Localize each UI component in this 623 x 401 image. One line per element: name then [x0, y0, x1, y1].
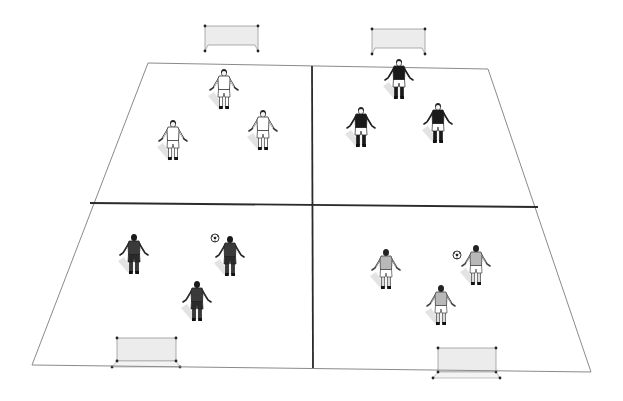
player-left-leg [220, 96, 223, 107]
goal-net [372, 29, 425, 54]
goal-post [116, 360, 119, 363]
player-right-leg [225, 96, 228, 107]
player-left-leg [472, 272, 475, 283]
player-right-leg [477, 272, 480, 283]
goal-bottom-right [432, 347, 502, 380]
player-right-boot [264, 147, 268, 150]
player-right-leg [174, 147, 177, 158]
player-right-boot [174, 157, 178, 160]
training-field-diagram [0, 0, 623, 401]
player-shirt [128, 241, 140, 255]
player-grey-2 [460, 245, 490, 286]
player-shirt [257, 117, 269, 131]
goal-post [432, 377, 435, 380]
player-left-boot [356, 144, 360, 147]
player-left-boot [129, 271, 133, 274]
player-shirt [432, 110, 444, 124]
player-left-boot [219, 106, 223, 109]
player-dark-3 [181, 281, 211, 322]
player-right-boot [400, 96, 404, 99]
player-right-boot [477, 282, 481, 285]
player-shorts [355, 127, 367, 135]
player-right-leg [442, 312, 445, 323]
player-left-leg [259, 137, 262, 148]
player-head [227, 236, 233, 243]
goals [111, 25, 502, 380]
player-right-leg [439, 130, 442, 141]
player-face [222, 71, 226, 76]
player-shirt [380, 256, 392, 270]
player-right-leg [264, 137, 267, 148]
player-left-leg [130, 261, 133, 272]
ball-patch [459, 252, 461, 254]
goal-base [433, 372, 500, 378]
player-shorts [435, 305, 447, 313]
soccer-ball [211, 234, 219, 242]
quadrant-top-left [157, 69, 277, 161]
player-head [473, 245, 479, 252]
player-right-boot [135, 271, 139, 274]
player-face [436, 105, 440, 110]
goal-post [437, 347, 440, 350]
player-shirt [470, 252, 482, 266]
goal-post [204, 25, 207, 28]
goal-top-right [371, 28, 427, 56]
goal-post [371, 53, 374, 56]
player-head [131, 234, 137, 241]
player-shorts [224, 256, 236, 264]
player-grey-1 [370, 249, 400, 290]
player-right-boot [439, 140, 443, 143]
player-shirt [224, 243, 236, 257]
soccer-ball [453, 251, 461, 259]
player-right-leg [387, 276, 390, 287]
player-left-boot [225, 273, 229, 276]
goal-post [424, 53, 427, 56]
goal-net [438, 348, 496, 372]
player-right-leg [231, 263, 234, 274]
player-white-3 [247, 110, 277, 151]
player-right-leg [198, 308, 201, 319]
goal-post [204, 50, 207, 53]
goal-post [257, 50, 260, 53]
goal-post [175, 337, 178, 340]
goal-post [257, 25, 260, 28]
player-right-boot [442, 322, 446, 325]
ball-patch [456, 257, 458, 259]
goal-post [437, 371, 440, 374]
player-shorts [432, 123, 444, 131]
player-shirt [393, 66, 405, 80]
player-left-leg [357, 134, 360, 145]
player-head [194, 281, 200, 288]
player-left-leg [382, 276, 385, 287]
goal-post [371, 28, 374, 31]
player-right-boot [387, 286, 391, 289]
player-left-boot [433, 140, 437, 143]
vertical-divider-line [312, 66, 313, 368]
player-shorts [380, 269, 392, 277]
player-head [383, 249, 389, 256]
player-grey-3 [425, 285, 455, 326]
goal-post [175, 360, 178, 363]
goal-net [205, 26, 258, 51]
player-face [397, 61, 401, 66]
ball-patch [454, 252, 456, 254]
player-right-boot [231, 273, 235, 276]
player-white-2 [157, 120, 187, 161]
quadrant-top-right [345, 59, 452, 148]
player-left-leg [193, 308, 196, 319]
player-left-boot [394, 96, 398, 99]
player-left-boot [436, 322, 440, 325]
goal-bottom-left [111, 337, 182, 369]
player-shirt [191, 288, 203, 302]
player-left-boot [258, 147, 262, 150]
player-right-boot [225, 106, 229, 109]
player-right-leg [362, 134, 365, 145]
player-face [171, 122, 175, 127]
ball-patch [212, 235, 214, 237]
player-shirt [355, 114, 367, 128]
goal-top-left [204, 25, 260, 53]
player-face [261, 112, 265, 117]
player-shorts [167, 140, 179, 148]
player-head [438, 285, 444, 292]
player-right-leg [135, 261, 138, 272]
